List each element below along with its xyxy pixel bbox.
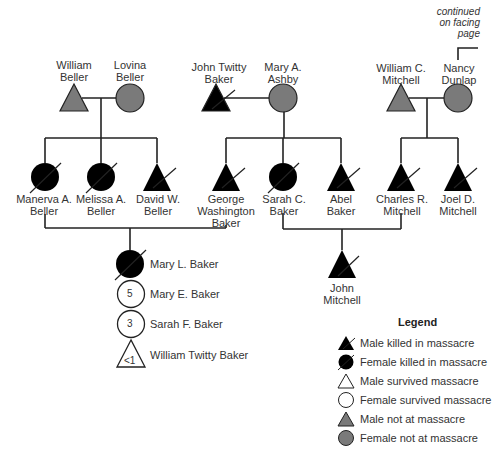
triangle-killed-icon — [336, 334, 356, 352]
label-william-beller: William Beller — [56, 59, 91, 83]
label-line: Lovina — [114, 59, 146, 71]
label-sarah-f-baker: Sarah F. Baker — [150, 318, 223, 330]
age-mary-e-baker: 5 — [127, 288, 133, 300]
label-line: Joel D. — [439, 193, 476, 205]
label-line: Baker — [327, 205, 356, 217]
label-line: Baker — [197, 217, 255, 229]
label-line: Nancy — [442, 62, 477, 74]
legend-title: Legend — [398, 316, 437, 328]
label-line: Manerva A. — [16, 193, 72, 205]
label-line: William — [56, 59, 91, 71]
label-sarah-c-baker: Sarah C. Baker — [262, 193, 305, 217]
triangle-gray-icon — [336, 410, 356, 428]
circle-gray-icon — [336, 429, 356, 447]
label-line: Beller — [16, 205, 72, 217]
label-line: Abel — [327, 193, 356, 205]
label-abel-baker: Abel Baker — [327, 193, 356, 217]
age-sarah-f-baker: 3 — [127, 318, 133, 330]
label-line: Beller — [76, 205, 126, 217]
charles-mitchell-symbol — [387, 163, 420, 191]
label-lovina-beller: Lovina Beller — [114, 59, 146, 83]
mary-l-baker-symbol — [115, 250, 146, 280]
triangle-outline-icon — [336, 372, 356, 390]
note-line: page — [420, 28, 480, 39]
age-william-twitty-baker: <1 — [124, 355, 135, 367]
label-line: Sarah C. — [262, 193, 305, 205]
label-charles-mitchell: Charles R. Mitchell — [376, 193, 428, 217]
label-nancy-dunlap: Nancy Dunlap — [442, 62, 477, 86]
label-john-twitty-baker: John Twitty Baker — [192, 61, 247, 85]
label-manerva-beller: Manerva A. Beller — [16, 193, 72, 217]
label-line: John Twitty — [192, 61, 247, 73]
joel-mitchell-symbol — [444, 163, 477, 191]
legend-label: Male killed in massacre — [360, 337, 474, 349]
mary-ashby-symbol — [269, 84, 297, 112]
label-line: Washington — [197, 205, 255, 217]
label-melissa-beller: Melissa A. Beller — [76, 193, 126, 217]
label-line: Mary A. — [264, 61, 301, 73]
manerva-beller-symbol — [30, 163, 61, 193]
legend-label: Female killed in massacre — [360, 356, 487, 368]
sarah-c-baker-symbol — [268, 163, 299, 193]
label-line: Mitchell — [323, 294, 360, 306]
label-john-mitchell: John Mitchell — [323, 282, 360, 306]
john-mitchell-symbol — [328, 250, 359, 278]
legend-label: Male not at massacre — [360, 413, 465, 425]
nancy-dunlap-symbol — [444, 84, 472, 112]
label-line: John — [323, 282, 360, 294]
label-line: William C. — [376, 62, 426, 74]
label-mary-l-baker: Mary L. Baker — [150, 258, 218, 270]
label-george-baker: George Washington Baker — [197, 193, 255, 229]
david-beller-symbol — [143, 163, 176, 191]
label-line: Beller — [136, 205, 180, 217]
label-line: Melissa A. — [76, 193, 126, 205]
legend-label: Female survived massacre — [360, 394, 491, 406]
legend-label: Female not at massacre — [360, 432, 478, 444]
label-david-beller: David W. Beller — [136, 193, 180, 217]
label-william-twitty-baker: William Twitty Baker — [150, 349, 248, 361]
legend-item-male-killed: Male killed in massacre — [336, 334, 474, 352]
legend-item-female-survived: Female survived massacre — [336, 391, 491, 409]
label-joel-mitchell: Joel D. Mitchell — [439, 193, 476, 217]
label-line: Charles R. — [376, 193, 428, 205]
lovina-beller-symbol — [116, 84, 144, 112]
legend-item-female-not-at-massacre: Female not at massacre — [336, 429, 478, 447]
label-line: Baker — [192, 73, 247, 85]
note-line: continued — [420, 6, 480, 17]
label-line: Baker — [262, 205, 305, 217]
melissa-beller-symbol — [86, 163, 117, 193]
label-mary-ashby: Mary A. Ashby — [264, 61, 301, 85]
note-line: on facing — [420, 17, 480, 28]
legend-item-male-survived: Male survived massacre — [336, 372, 479, 390]
continued-note: continued on facing page — [420, 6, 480, 39]
pedigree-diagram: continued on facing page William Beller … — [0, 0, 500, 469]
label-line: Ashby — [264, 73, 301, 85]
label-line: Mitchell — [376, 205, 428, 217]
george-baker-symbol — [212, 163, 245, 191]
circle-killed-icon — [336, 353, 356, 371]
label-mary-e-baker: Mary E. Baker — [150, 288, 220, 300]
legend-label: Male survived massacre — [360, 375, 479, 387]
label-line: David W. — [136, 193, 180, 205]
abel-baker-symbol — [327, 163, 360, 191]
circle-outline-icon — [336, 391, 356, 409]
label-line: Beller — [56, 71, 91, 83]
legend-item-male-not-at-massacre: Male not at massacre — [336, 410, 465, 428]
label-william-c-mitchell: William C. Mitchell — [376, 62, 426, 86]
label-line: Beller — [114, 71, 146, 83]
label-line: Mitchell — [376, 74, 426, 86]
label-line: Dunlap — [442, 74, 477, 86]
label-line: Mitchell — [439, 205, 476, 217]
label-line: George — [197, 193, 255, 205]
legend-item-female-killed: Female killed in massacre — [336, 353, 487, 371]
